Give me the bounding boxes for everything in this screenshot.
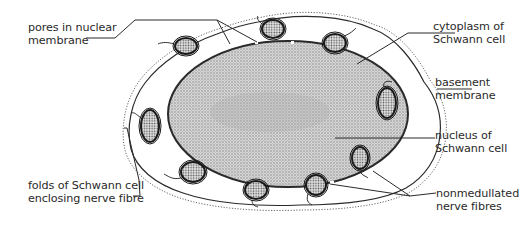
label-nucleus-of-schwann-cell: nucleus of Schwann cell: [435, 129, 507, 155]
label-pores-in-nuclear-membrane: pores in nuclear membrane: [28, 21, 117, 47]
nuclear-pore: [330, 181, 334, 184]
label-basement-membrane: basement membrane: [435, 76, 495, 102]
nuclear-pore: [291, 41, 294, 44]
nuclear-pore: [225, 180, 229, 183]
label-nonmedullated-nerve-fibres: nonmedullated nerve fibres: [436, 187, 519, 213]
label-cytoplasm-of-schwann-cell: cytoplasm of Schwann cell: [433, 20, 505, 46]
label-folds-of-schwann-cell: folds of Schwann cell enclosing nerve fi…: [28, 179, 144, 205]
nerve-fibre: [158, 36, 199, 56]
